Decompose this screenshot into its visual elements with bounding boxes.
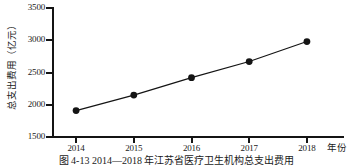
figure-caption: 图 4-13 2014—2018 年江苏省医疗卫生机构总支出费用 [0, 155, 353, 165]
figure: 总支出费用（亿元） 15002000250030003500 201420152… [0, 0, 353, 165]
data-point-marker: 2018: 2980 [304, 38, 311, 45]
data-series: 2014: 19102015: 21502016: 24202017: 2670… [0, 0, 353, 165]
data-point-marker: 2014: 1910 [73, 107, 80, 114]
data-point-marker: 2016: 2420 [188, 74, 195, 81]
data-point-marker: 2017: 2670 [246, 58, 253, 65]
data-point-marker: 2015: 2150 [130, 92, 137, 99]
